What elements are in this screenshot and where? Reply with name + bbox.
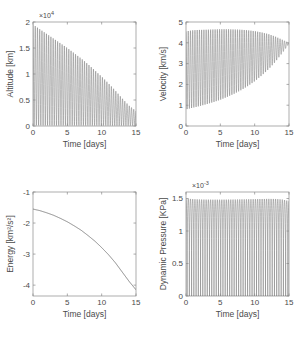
x-tick-label: 10 xyxy=(97,298,106,307)
y-tick-label: 0.5 xyxy=(172,259,184,268)
subplot-dynamic-pressure-vs-time: 05101500.511.5×10-3Time [days]Dynamic Pr… xyxy=(158,180,294,319)
y-tick-label: 0 xyxy=(179,292,184,301)
x-tick-label: 15 xyxy=(132,298,141,307)
x-tick-label: 5 xyxy=(65,298,70,307)
x-tick-label: 10 xyxy=(250,298,259,307)
y-tick-label: -1 xyxy=(23,188,31,197)
x-tick-label: 5 xyxy=(218,128,223,137)
x-tick-label: 10 xyxy=(250,128,259,137)
data-trace xyxy=(186,29,289,109)
subplot-velocity-vs-time: 051015012345Time [days]Velocity [km/s] xyxy=(158,18,294,149)
y-tick-label: 1 xyxy=(179,227,184,236)
y-tick-label: 2 xyxy=(179,80,184,89)
data-trace xyxy=(186,199,289,297)
plot-box xyxy=(33,192,136,296)
x-tick-label: 0 xyxy=(31,298,36,307)
x-tick-label: 0 xyxy=(184,128,189,137)
x-tick-label: 5 xyxy=(218,298,223,307)
y-axis-exponent-label: ×104 xyxy=(39,10,54,19)
x-axis-label: Time [days] xyxy=(63,139,107,149)
y-axis-label: Energy [km²/s²] xyxy=(5,215,15,273)
data-trace xyxy=(33,25,136,126)
subplot-altitude-vs-time: 05101500.511.52×104Time [days]Altitude [… xyxy=(5,10,141,149)
x-tick-label: 5 xyxy=(65,128,70,137)
x-axis-label: Time [days] xyxy=(216,309,260,319)
y-tick-label: 3 xyxy=(179,59,184,68)
y-tick-label: 4 xyxy=(179,39,184,48)
y-axis-label: Altitude [km] xyxy=(5,51,15,98)
y-axis-label: Velocity [km/s] xyxy=(158,47,168,101)
y-tick-label: -3 xyxy=(23,250,31,259)
x-tick-label: 10 xyxy=(97,128,106,137)
x-tick-label: 15 xyxy=(285,298,294,307)
x-axis-label: Time [days] xyxy=(216,139,260,149)
four-panel-simulation-figure: 05101500.511.52×104Time [days]Altitude [… xyxy=(0,0,301,337)
plot-box xyxy=(186,192,289,296)
y-tick-label: 1.5 xyxy=(172,194,184,203)
y-tick-label: 2 xyxy=(26,18,31,27)
y-tick-label: 0.5 xyxy=(19,96,31,105)
y-tick-label: 5 xyxy=(179,18,184,27)
y-tick-label: 0 xyxy=(179,122,184,131)
x-tick-label: 0 xyxy=(184,298,189,307)
y-tick-label: 0 xyxy=(26,122,31,131)
y-axis-exponent-label: ×10-3 xyxy=(192,180,209,189)
y-tick-label: 1.5 xyxy=(19,44,31,53)
y-tick-label: 1 xyxy=(26,70,31,79)
x-axis-label: Time [days] xyxy=(63,309,107,319)
subplot-energy-vs-time: 051015-1-2-3-4Time [days]Energy [km²/s²] xyxy=(5,188,141,319)
y-tick-label: -4 xyxy=(23,281,31,290)
x-tick-label: 0 xyxy=(31,128,36,137)
x-tick-label: 15 xyxy=(132,128,141,137)
y-axis-label: Dynamic Pressure [KPa] xyxy=(158,198,168,291)
y-tick-label: 1 xyxy=(179,101,184,110)
data-trace xyxy=(33,209,136,290)
x-tick-label: 15 xyxy=(285,128,294,137)
figure-container: 05101500.511.52×104Time [days]Altitude [… xyxy=(0,0,301,337)
y-tick-label: -2 xyxy=(23,219,31,228)
